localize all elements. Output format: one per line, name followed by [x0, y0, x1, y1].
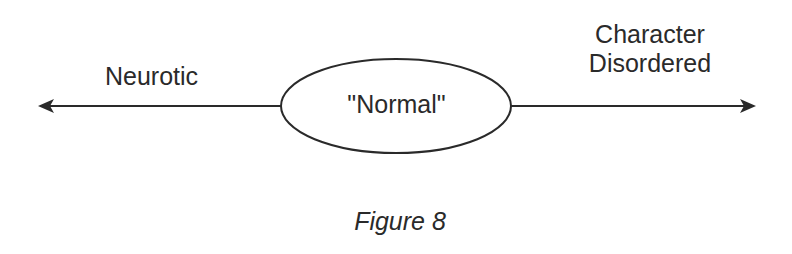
character-disordered-line1: Character	[550, 20, 750, 49]
character-disordered-line2: Disordered	[550, 49, 750, 78]
figure-caption: Figure 8	[300, 207, 500, 236]
character-disordered-label: Character Disordered	[550, 20, 750, 78]
normal-label: "Normal"	[281, 90, 512, 119]
neurotic-label: Neurotic	[105, 62, 198, 91]
